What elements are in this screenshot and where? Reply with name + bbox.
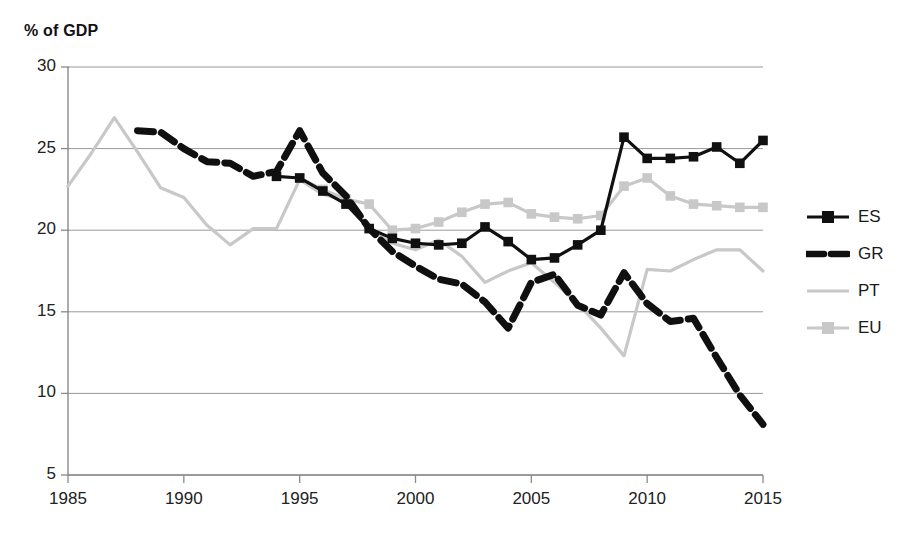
chart-container: % of GDP 51015202530 1985199019952000200… <box>0 0 921 534</box>
series-marker-es <box>411 238 421 248</box>
chart-legend: ES GR PT EU <box>806 198 884 346</box>
series-marker-es <box>642 154 652 164</box>
series-marker-es <box>550 253 560 263</box>
series-marker-eu <box>527 209 537 219</box>
series-marker-es <box>341 199 351 209</box>
series-marker-es <box>364 224 374 234</box>
y-axis-label-15: 15 <box>16 301 56 321</box>
x-axis-label-2010: 2010 <box>617 489 677 509</box>
series-marker-es <box>712 142 722 152</box>
series-marker-eu <box>411 224 421 234</box>
series-marker-eu <box>666 191 676 201</box>
series-marker-es <box>457 238 467 248</box>
series-marker-eu <box>573 214 583 224</box>
series-line-gr <box>138 131 764 425</box>
legend-swatch-gr <box>806 245 850 263</box>
x-axis-label-1985: 1985 <box>38 489 98 509</box>
series-marker-eu <box>735 203 745 213</box>
series-marker-eu <box>364 199 374 209</box>
series-marker-es <box>666 154 676 164</box>
legend-label-es: ES <box>858 208 881 225</box>
series-marker-es <box>596 225 606 235</box>
legend-swatch-pt <box>806 282 850 300</box>
series-marker-eu <box>712 201 722 211</box>
series-marker-es <box>434 240 444 250</box>
x-axis-label-2015: 2015 <box>733 489 793 509</box>
series-marker-es <box>573 240 583 250</box>
series-marker-es <box>503 237 513 247</box>
series-marker-es <box>480 222 490 232</box>
series-marker-es <box>318 186 328 196</box>
series-marker-eu <box>642 173 652 183</box>
x-axis-label-1995: 1995 <box>270 489 330 509</box>
series-marker-eu <box>503 198 513 208</box>
series-marker-eu <box>550 212 560 222</box>
x-axis-label-2000: 2000 <box>386 489 446 509</box>
series-marker-eu <box>434 217 444 227</box>
series-marker-eu <box>619 181 629 191</box>
y-axis-label-20: 20 <box>16 219 56 239</box>
series-marker-es <box>295 173 305 183</box>
series-marker-eu <box>457 207 467 217</box>
legend-label-eu: EU <box>858 319 882 336</box>
y-axis-label-5: 5 <box>16 464 56 484</box>
legend-swatch-eu <box>806 319 850 337</box>
series-marker-es <box>758 136 768 146</box>
legend-item-pt[interactable]: PT <box>806 272 884 309</box>
series-marker-es <box>619 132 629 142</box>
y-axis-label-25: 25 <box>16 138 56 158</box>
legend-item-gr[interactable]: GR <box>806 235 884 272</box>
series-line-pt <box>68 118 763 356</box>
y-axis-label-30: 30 <box>16 56 56 76</box>
series-marker-eu <box>480 199 490 209</box>
legend-label-gr: GR <box>858 245 884 262</box>
series-marker-es <box>527 255 537 265</box>
series-marker-eu <box>689 199 699 209</box>
series-marker-es <box>272 172 282 182</box>
plot-area <box>0 0 800 534</box>
legend-item-eu[interactable]: EU <box>806 309 884 346</box>
y-axis-title: % of GDP <box>24 22 99 40</box>
legend-item-es[interactable]: ES <box>806 198 884 235</box>
y-axis-label-10: 10 <box>16 382 56 402</box>
x-axis-label-2005: 2005 <box>501 489 561 509</box>
legend-swatch-es <box>806 208 850 226</box>
legend-label-pt: PT <box>858 282 880 299</box>
series-marker-es <box>689 152 699 162</box>
series-marker-es <box>388 234 398 244</box>
series-marker-eu <box>758 203 768 213</box>
series-marker-es <box>735 158 745 168</box>
x-axis-label-1990: 1990 <box>154 489 214 509</box>
